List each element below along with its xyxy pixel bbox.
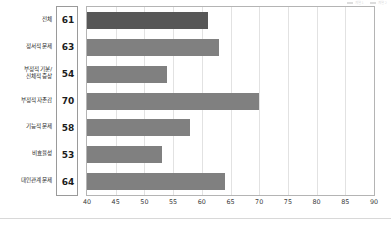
bar (87, 39, 219, 56)
x-axis-tick-label: 70 (255, 198, 263, 207)
value-cell: 53 (57, 150, 79, 160)
x-axis-tick-label: 60 (198, 198, 206, 207)
category-label: 정서적 문제 (0, 43, 52, 50)
legend-item-label: 계열 1 (355, 1, 364, 5)
bar (87, 119, 190, 136)
category-label: 대인관계 문제 (0, 177, 52, 184)
x-axis-tick-label: 90 (370, 198, 378, 207)
footer-divider (0, 218, 391, 219)
x-axis-tick-label: 75 (284, 198, 292, 207)
bar (87, 173, 225, 190)
category-label: 기능적 문제 (0, 123, 52, 130)
legend-swatch-icon (347, 2, 353, 4)
value-cell: 70 (57, 96, 79, 106)
value-column: 61 63 54 70 58 53 64 (56, 6, 78, 196)
bar (87, 93, 259, 110)
x-axis: 4045505560657075808590 (86, 198, 375, 210)
gridline (288, 7, 289, 195)
x-axis-tick-label: 65 (226, 198, 234, 207)
gridline (259, 7, 260, 195)
gridline (317, 7, 318, 195)
legend-item: 계열 1 (347, 1, 364, 5)
legend-item: 계열 2 (370, 1, 387, 5)
legend-item-label: 계열 2 (378, 1, 387, 5)
x-axis-tick-label: 85 (341, 198, 349, 207)
x-axis-tick-label: 40 (83, 198, 91, 207)
category-label: 비효율성 (0, 150, 52, 157)
value-cell: 61 (57, 15, 79, 25)
x-axis-tick-label: 50 (140, 198, 148, 207)
chart-legend: 계열 1 계열 2 (347, 1, 388, 5)
gridline (374, 7, 375, 195)
category-label: 전체 (0, 16, 52, 23)
bar (87, 66, 167, 83)
gridline (345, 7, 346, 195)
bar-chart: 계열 1 계열 2 전체 정서적 문제 부정적 기분/ 신체적 증상 부정적 자… (0, 0, 391, 231)
legend-swatch-icon (370, 2, 376, 4)
plot-area (86, 6, 375, 196)
x-axis-tick-label: 80 (313, 198, 321, 207)
category-label: 부정적 자존감 (0, 97, 52, 104)
bar (87, 146, 162, 163)
bar (87, 12, 208, 29)
x-axis-tick-label: 55 (169, 198, 177, 207)
category-label: 부정적 기분/ 신체적 증상 (0, 66, 52, 80)
value-cell: 54 (57, 69, 79, 79)
value-cell: 64 (57, 177, 79, 187)
value-cell: 63 (57, 42, 79, 52)
x-axis-tick-label: 45 (112, 198, 120, 207)
value-cell: 58 (57, 123, 79, 133)
category-label-column: 전체 정서적 문제 부정적 기분/ 신체적 증상 부정적 자존감 기능적 문제 … (0, 6, 55, 196)
